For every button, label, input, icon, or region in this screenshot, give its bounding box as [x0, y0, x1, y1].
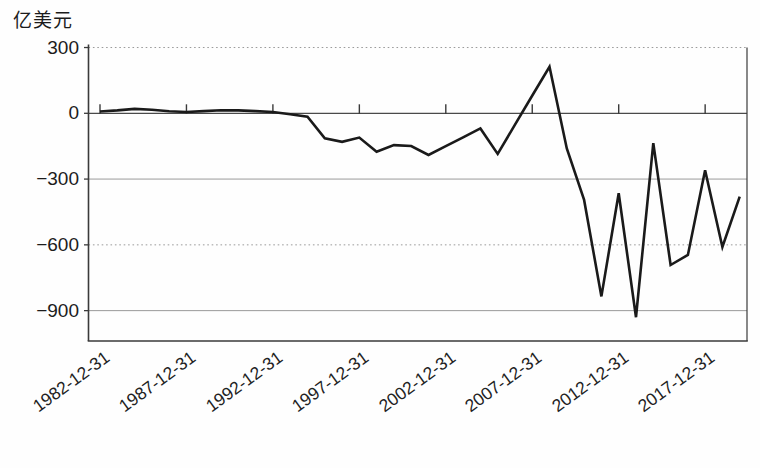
y-tick-label: −900 [0, 300, 79, 322]
y-tick-label: −600 [0, 234, 79, 256]
line-chart: 亿美元 3000−300−600−900 1982-12-311987-12-3… [0, 0, 760, 468]
y-tick-label: 0 [0, 102, 79, 124]
y-tick-label: 300 [0, 37, 79, 59]
data-line [100, 67, 740, 317]
y-tick-label: −300 [0, 168, 79, 190]
